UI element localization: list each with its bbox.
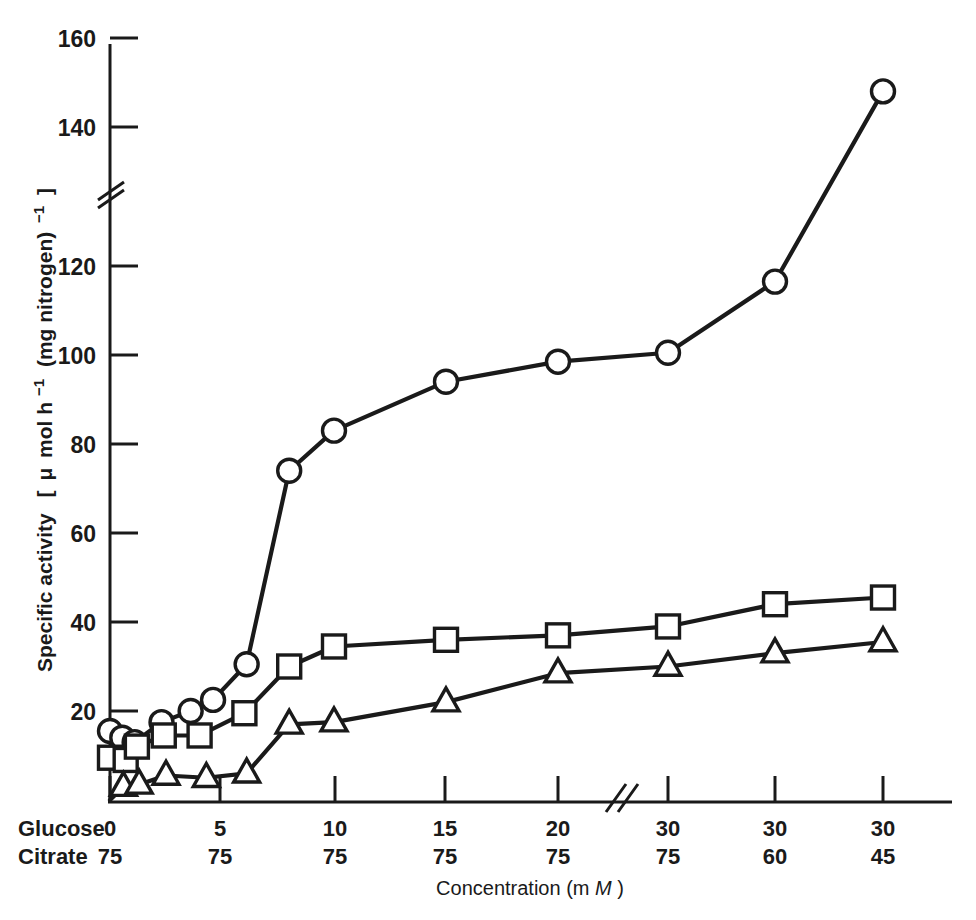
x-category-4: 2075 — [546, 816, 570, 869]
circle-marker — [278, 459, 301, 482]
y-tick-label-20: 20 — [70, 699, 96, 725]
y-title-mu: μ — [33, 468, 56, 481]
x-category-glucose-1: 5 — [214, 816, 226, 841]
x-title-tail: ) — [617, 877, 624, 899]
square-marker — [125, 735, 148, 758]
y-tick-label-160: 160 — [58, 26, 96, 52]
circle-marker — [235, 653, 258, 676]
square-marker — [547, 624, 570, 647]
x-tick-group — [110, 776, 883, 802]
triangle-marker — [870, 628, 896, 651]
x-category-3: 1575 — [433, 816, 457, 869]
x-category-glucose-4: 20 — [546, 816, 570, 841]
square-marker — [872, 586, 895, 609]
y-tick-label-group: 20406080100120140160 — [58, 26, 96, 725]
line-chart-canvas: 20406080100120140160 Specific activity [… — [0, 0, 976, 920]
x-category-citrate-5: 75 — [656, 844, 680, 869]
circle-marker — [547, 350, 570, 373]
square-marker — [435, 628, 458, 651]
x-category-glucose-5: 30 — [656, 816, 680, 841]
x-category-citrate-6: 60 — [763, 844, 787, 869]
x-axis-title-text: Concentration (m M ) — [436, 877, 624, 899]
y-tick-label-80: 80 — [70, 432, 96, 458]
circle-marker — [435, 370, 458, 393]
x-category-citrate-4: 75 — [546, 844, 570, 869]
x-title-lead: Concentration (m — [436, 877, 589, 899]
row-label-glucose: Glucose — [18, 816, 105, 841]
x-category-citrate-2: 75 — [323, 844, 347, 869]
circle-marker — [323, 419, 346, 442]
x-category-5: 3075 — [656, 816, 680, 869]
circle-marker — [764, 270, 787, 293]
square-series — [99, 586, 895, 771]
x-category-2: 1075 — [323, 816, 347, 869]
y-title-bracket-close: ] — [33, 188, 56, 195]
x-category-value-group: 075575107515752075307530603045 — [98, 816, 895, 869]
x-title-italic-m: M — [595, 877, 612, 899]
x-axis-title: Concentration (m M ) — [436, 877, 624, 899]
y-title-sup2: −1 — [30, 206, 47, 223]
x-category-7: 3045 — [871, 816, 895, 869]
square-marker — [152, 724, 175, 747]
y-axis-title: Specific activity [ μ mol h −1 (mg nitro… — [30, 188, 57, 672]
square-marker — [323, 635, 346, 658]
circle-marker — [872, 80, 895, 103]
x-category-glucose-3: 15 — [433, 816, 457, 841]
circle-marker — [657, 341, 680, 364]
y-title-mol: mol h — [33, 402, 56, 458]
x-category-1: 575 — [208, 816, 232, 869]
y-title-sup1: −1 — [30, 379, 47, 396]
x-axis-break-icon — [606, 784, 638, 812]
square-marker — [657, 615, 680, 638]
x-category-citrate-0: 75 — [98, 844, 122, 869]
y-tick-label-40: 40 — [70, 610, 96, 636]
row-label-citrate: Citrate — [18, 844, 88, 869]
triangle-marker — [276, 710, 302, 733]
triangle-marker — [545, 659, 571, 682]
y-title-bracket-open: [ — [33, 490, 56, 497]
square-marker — [188, 724, 211, 747]
square-marker — [233, 702, 256, 725]
square-marker — [764, 593, 787, 616]
x-category-glucose-6: 30 — [763, 816, 787, 841]
y-tick-group — [110, 38, 138, 711]
triangle-series — [110, 628, 896, 800]
triangle-marker — [153, 761, 179, 784]
y-tick-label-100: 100 — [58, 343, 96, 369]
x-category-citrate-1: 75 — [208, 844, 232, 869]
x-category-citrate-3: 75 — [433, 844, 457, 869]
x-category-glucose-0: 0 — [104, 816, 116, 841]
y-axis-group: 20406080100120140160 — [58, 26, 138, 802]
circle-marker — [179, 700, 202, 723]
y-axis-title-text: Specific activity [ μ mol h −1 (mg nitro… — [30, 188, 57, 672]
chart-figure: 20406080100120140160 Specific activity [… — [0, 0, 976, 920]
y-title-lead: Specific activity — [33, 513, 56, 672]
x-category-citrate-7: 45 — [871, 844, 895, 869]
square-marker — [278, 655, 301, 678]
x-category-glucose-7: 30 — [871, 816, 895, 841]
y-tick-label-140: 140 — [58, 115, 96, 141]
y-title-paren: (mg nitrogen) — [33, 232, 56, 367]
x-category-6: 3060 — [763, 816, 787, 869]
x-category-labels: Glucose Citrate 075575107515752075307530… — [18, 816, 895, 869]
y-tick-label-120: 120 — [58, 254, 96, 280]
circle-marker — [202, 688, 225, 711]
y-tick-label-60: 60 — [70, 521, 96, 547]
series-layer — [99, 80, 897, 800]
square-series-path — [110, 598, 883, 760]
x-category-glucose-2: 10 — [323, 816, 347, 841]
circle-series-path — [110, 91, 883, 742]
